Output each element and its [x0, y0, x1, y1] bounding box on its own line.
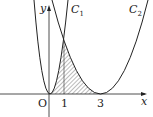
curve-c1-label: C1 [71, 4, 84, 18]
tick-label-3: 3 [97, 98, 104, 109]
origin-label: O [38, 98, 47, 109]
y-axis-label: y [40, 3, 46, 14]
x-axis-label: x [141, 96, 147, 107]
tick-label-1: 1 [61, 98, 68, 109]
curve-c2-label: C2 [129, 4, 142, 18]
y-axis-arrow-icon [47, 5, 51, 11]
